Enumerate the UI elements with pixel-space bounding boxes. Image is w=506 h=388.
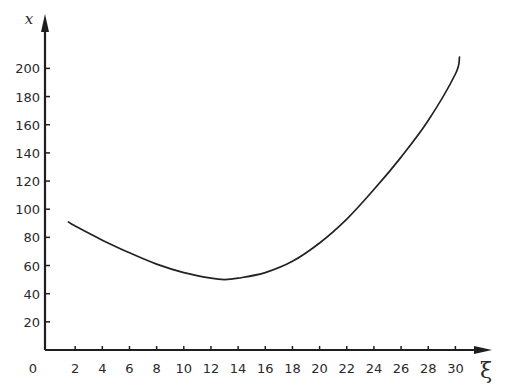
x-tick-label: 6 <box>125 361 133 376</box>
x-tick-label: 20 <box>311 361 328 376</box>
x-tick-label: 10 <box>176 361 193 376</box>
y-tick-label: 60 <box>23 259 40 274</box>
y-tick-label: 180 <box>15 90 40 105</box>
data-curve <box>68 57 459 280</box>
x-tick-label: 26 <box>393 361 410 376</box>
y-tick-label: 160 <box>15 118 40 133</box>
x-tick-label: 28 <box>420 361 437 376</box>
y-axis-arrow-icon <box>41 14 49 32</box>
origin-label: 0 <box>29 361 37 376</box>
x-tick-label: 12 <box>203 361 220 376</box>
y-tick-label: 20 <box>23 315 40 330</box>
x-tick-label: 8 <box>152 361 160 376</box>
x-tick-label: 14 <box>230 361 247 376</box>
y-axis: 20406080100120140160180200 <box>15 14 50 350</box>
x-tick-label: 18 <box>284 361 301 376</box>
x-axis-arrow-icon <box>474 346 492 354</box>
x-axis: 24681012141618202224262830 <box>45 346 492 376</box>
x-tick-label: 16 <box>257 361 274 376</box>
y-axis-label: x <box>25 10 34 28</box>
x-tick-label: 2 <box>71 361 79 376</box>
line-chart: 20406080100120140160180200 2468101214161… <box>0 0 506 388</box>
x-tick-label: 4 <box>98 361 106 376</box>
y-tick-label: 200 <box>15 61 40 76</box>
y-tick-label: 100 <box>15 202 40 217</box>
y-tick-label: 140 <box>15 146 40 161</box>
y-tick-label: 40 <box>23 287 40 302</box>
x-axis-label: ξ <box>480 358 492 383</box>
y-tick-label: 120 <box>15 174 40 189</box>
y-tick-label: 80 <box>23 230 40 245</box>
x-tick-label: 24 <box>366 361 383 376</box>
x-tick-label: 30 <box>447 361 464 376</box>
x-tick-label: 22 <box>338 361 355 376</box>
